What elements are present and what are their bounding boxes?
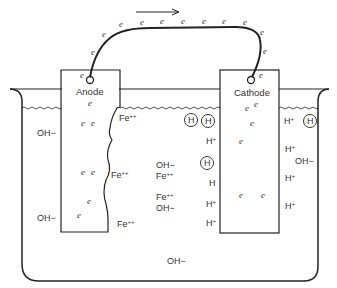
svg-text:e: e bbox=[181, 16, 185, 26]
svg-text:H+: H+ bbox=[206, 199, 217, 209]
svg-text:Fe++: Fe++ bbox=[156, 171, 174, 181]
svg-text:e: e bbox=[259, 70, 263, 80]
svg-text:OH−: OH− bbox=[37, 213, 56, 223]
anode-label: Anode bbox=[76, 86, 103, 97]
svg-text:e: e bbox=[91, 167, 95, 177]
svg-text:e: e bbox=[81, 167, 85, 177]
hydrogen-left-of-cathode: H H H+ H H H+ H+ bbox=[185, 114, 217, 229]
svg-text:H: H bbox=[205, 116, 212, 126]
svg-text:Fe++: Fe++ bbox=[117, 219, 135, 229]
svg-text:e: e bbox=[239, 190, 243, 200]
left-solution-ions: OH− OH− bbox=[37, 128, 56, 223]
svg-text:e: e bbox=[119, 19, 123, 29]
svg-text:Fe++: Fe++ bbox=[111, 170, 129, 180]
svg-text:e: e bbox=[250, 118, 254, 128]
svg-text:e: e bbox=[160, 16, 164, 26]
svg-text:e: e bbox=[81, 118, 85, 128]
svg-text:OH−: OH− bbox=[167, 256, 186, 266]
hydrogen-right-of-cathode: H+ H H+ OH− H+ H+ bbox=[284, 115, 317, 212]
electron-flow-arrow bbox=[136, 9, 179, 15]
svg-text:OH−: OH− bbox=[156, 160, 175, 170]
svg-text:e: e bbox=[239, 136, 243, 146]
svg-text:e: e bbox=[222, 16, 226, 26]
svg-text:e: e bbox=[80, 70, 84, 80]
svg-text:OH−: OH− bbox=[295, 156, 314, 166]
svg-text:e: e bbox=[245, 103, 249, 113]
ferrous-ions: Fe++ Fe++ Fe++ bbox=[111, 113, 137, 229]
svg-text:H+: H+ bbox=[206, 136, 217, 146]
cathode-electrode: Cathode bbox=[220, 70, 279, 233]
svg-text:e: e bbox=[91, 47, 95, 57]
svg-text:H+: H+ bbox=[285, 201, 296, 211]
svg-text:Fe++: Fe++ bbox=[156, 192, 174, 202]
svg-text:e: e bbox=[254, 99, 258, 109]
svg-text:e: e bbox=[140, 17, 144, 27]
svg-text:e: e bbox=[260, 27, 264, 37]
svg-text:e: e bbox=[88, 98, 92, 108]
svg-text:OH−: OH− bbox=[156, 203, 175, 213]
svg-text:Fe++: Fe++ bbox=[119, 113, 137, 123]
svg-text:H+: H+ bbox=[206, 218, 217, 228]
svg-text:H+: H+ bbox=[285, 144, 296, 154]
cathode-label: Cathode bbox=[234, 87, 270, 98]
corrosion-cell-diagram: Anode Cathode e e e e e e e e e e e e e … bbox=[0, 0, 337, 288]
svg-text:e: e bbox=[261, 190, 265, 200]
svg-text:H: H bbox=[188, 115, 195, 125]
svg-text:H+: H+ bbox=[285, 173, 296, 183]
anode-electrons: e e e e e e e bbox=[77, 98, 95, 220]
middle-solution-ions: OH− Fe++ Fe++ OH− OH− bbox=[156, 160, 186, 266]
svg-text:H: H bbox=[307, 116, 314, 126]
svg-text:e: e bbox=[91, 118, 95, 128]
anode-electrode: Anode bbox=[61, 70, 120, 232]
svg-text:e: e bbox=[263, 46, 267, 56]
svg-text:H: H bbox=[204, 158, 211, 168]
water-surface bbox=[22, 107, 319, 109]
svg-text:OH−: OH− bbox=[37, 128, 56, 138]
svg-text:H: H bbox=[209, 178, 216, 188]
svg-text:e: e bbox=[77, 210, 81, 220]
svg-text:e: e bbox=[202, 16, 206, 26]
svg-text:H+: H+ bbox=[284, 116, 295, 126]
beaker bbox=[10, 89, 329, 281]
svg-text:e: e bbox=[87, 196, 91, 206]
svg-text:e: e bbox=[102, 29, 106, 39]
svg-text:e: e bbox=[243, 17, 247, 27]
